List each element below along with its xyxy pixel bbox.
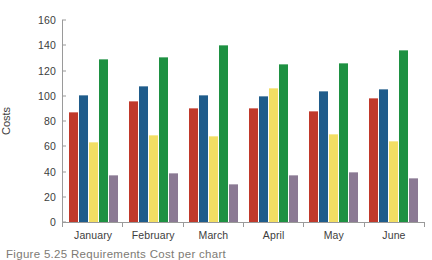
- x-axis-tick-label: June: [364, 229, 424, 241]
- bar: [149, 135, 158, 222]
- bar: [209, 136, 218, 222]
- x-axis-labels: JanuaryFebruaryMarchAprilMayJune: [63, 229, 424, 241]
- bar: [69, 112, 78, 222]
- bar-group: [183, 20, 243, 222]
- x-axis-tick-mark: [303, 222, 304, 227]
- bar: [389, 141, 398, 222]
- x-axis-tick-label: May: [304, 229, 364, 241]
- x-axis-tick-label: February: [123, 229, 183, 241]
- bar: [129, 101, 138, 222]
- bar: [169, 173, 178, 222]
- bar: [399, 50, 408, 222]
- bar: [269, 88, 278, 222]
- x-axis-tick-mark: [364, 222, 365, 227]
- x-axis-tick-label: March: [183, 229, 243, 241]
- bar: [89, 142, 98, 222]
- bar: [199, 95, 208, 223]
- bar: [229, 184, 238, 222]
- bar: [329, 134, 338, 222]
- y-axis-tick-label: 120: [0, 65, 62, 77]
- bar: [279, 64, 288, 222]
- bar: [319, 91, 328, 222]
- x-axis-tick-mark: [424, 222, 425, 227]
- bar: [349, 172, 358, 223]
- y-axis-tick-label: 140: [0, 39, 62, 51]
- x-axis-tick-label: April: [244, 229, 304, 241]
- bar-group: [63, 20, 123, 222]
- x-axis-tick-mark: [243, 222, 244, 227]
- y-axis-tick-label: 20: [0, 191, 62, 203]
- x-axis-tick-mark: [122, 222, 123, 227]
- y-axis-tick-label: 0: [0, 216, 62, 228]
- bar: [219, 45, 228, 222]
- bar: [289, 175, 298, 222]
- bar: [249, 108, 258, 222]
- x-axis-tick-label: January: [63, 229, 123, 241]
- bar-group: [304, 20, 364, 222]
- bar: [409, 178, 418, 222]
- y-axis-tick-label: 160: [0, 14, 62, 26]
- bar: [369, 98, 378, 222]
- bar: [159, 57, 168, 222]
- bar-group: [364, 20, 424, 222]
- bar: [79, 95, 88, 223]
- figure-caption: Figure 5.25 Requirements Cost per chart: [6, 248, 426, 260]
- x-axis-tick-mark: [62, 222, 63, 227]
- y-axis-tick-label: 60: [0, 140, 62, 152]
- bar-groups: [63, 20, 424, 222]
- bar-group: [123, 20, 183, 222]
- x-axis-tick-mark: [183, 222, 184, 227]
- bar: [259, 96, 268, 222]
- y-axis-tick-label: 80: [0, 115, 62, 127]
- bar: [189, 108, 198, 222]
- bar: [339, 63, 348, 222]
- y-axis-tick-label: 100: [0, 90, 62, 102]
- x-axis-ticks: [62, 222, 424, 228]
- bar: [99, 59, 108, 222]
- bar: [309, 111, 318, 222]
- bar: [109, 175, 118, 222]
- bar: [379, 89, 388, 222]
- bar-group: [244, 20, 304, 222]
- figure-root: Costs 020406080100120140160 JanuaryFebru…: [0, 0, 432, 260]
- bar: [139, 86, 148, 222]
- y-axis-tick-label: 40: [0, 166, 62, 178]
